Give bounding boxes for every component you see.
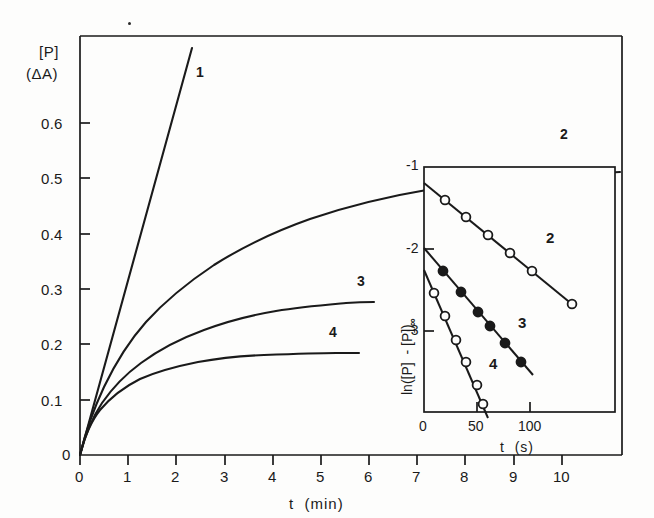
x-tick-label-6: 6	[364, 469, 372, 484]
inset-marker-4	[462, 358, 471, 367]
curve-1-path	[80, 48, 192, 455]
inset-x-tick-label-0: 0	[419, 419, 427, 433]
main-y-ticks	[80, 123, 90, 400]
inset-marker-3	[485, 321, 494, 330]
y-tick-label-0.4: 0.4	[41, 227, 63, 242]
x-tick-label-0: 0	[75, 469, 83, 484]
figure-canvas: [P] (ΔA) 0.6 0.5 0.4 0.3 0.2 0.1 0 0 1 2…	[0, 0, 654, 518]
x-tick-label-3: 3	[220, 469, 228, 484]
inset-marker-4	[452, 336, 461, 345]
origin-label: 0	[62, 447, 70, 462]
x-tick-label-4: 4	[268, 469, 276, 484]
inset-axes-frame	[424, 167, 615, 412]
inset-curve-label-2: 2	[546, 230, 554, 245]
x-tick-label-8: 8	[460, 469, 468, 484]
curve-label-2: 2	[560, 127, 568, 141]
inset-marker-4	[479, 400, 488, 409]
main-x-axis-title: t (min)	[289, 496, 344, 511]
inset-y-tick-label--2: -2	[406, 241, 418, 255]
main-y-axis-title-line2: (ΔA)	[26, 66, 58, 81]
inset-marker-2	[528, 267, 537, 276]
inset-marker-3	[438, 266, 447, 275]
inset-marker-4	[473, 381, 482, 390]
y-tick-label-0.1: 0.1	[41, 393, 63, 408]
inset-marker-2	[484, 231, 493, 240]
inset-marker-2	[506, 249, 515, 258]
inset-marker-3	[473, 307, 482, 316]
x-tick-label-5: 5	[316, 469, 324, 484]
inset-curve-label-3: 3	[518, 315, 526, 330]
curve-label-1: 1	[196, 65, 204, 79]
x-tick-label-9: 9	[509, 469, 517, 484]
inset-curve-label-4: 4	[489, 356, 497, 371]
inset-x-tick-label-100: 100	[518, 419, 541, 433]
y-tick-label-0.6: 0.6	[41, 116, 63, 131]
y-tick-label-0.5: 0.5	[41, 171, 63, 186]
main-y-axis-title-line1: [P]	[39, 44, 59, 59]
y-tick-label-0.3: 0.3	[41, 282, 63, 297]
curve-4-path	[80, 353, 359, 455]
inset-marker-3	[516, 357, 525, 366]
inset-marker-3	[500, 338, 509, 347]
inset-marker-2	[462, 213, 471, 222]
main-x-ticks	[80, 455, 562, 465]
x-tick-label-7: 7	[412, 469, 420, 484]
inset-marker-4	[430, 289, 439, 298]
x-tick-label-2: 2	[171, 469, 179, 484]
curve-label-4: 4	[329, 325, 337, 339]
inset-marker-3	[456, 287, 465, 296]
inset-plot-box	[424, 167, 615, 412]
inset-y-tick-label--1: -1	[406, 158, 418, 172]
inset-x-tick-label-50: 50	[468, 419, 484, 433]
inset-marker-4	[441, 312, 450, 321]
x-tick-label-10: 10	[553, 469, 570, 484]
y-tick-label-0.2: 0.2	[41, 337, 63, 352]
inset-x-axis-title: t (s)	[500, 440, 534, 454]
inset-y-tick-label--3: -3	[406, 323, 418, 337]
curve-label-3: 3	[357, 274, 365, 288]
inset-marker-2	[568, 300, 577, 309]
figure-vector-layer	[0, 0, 654, 518]
inset-marker-2	[441, 196, 450, 205]
x-tick-label-1: 1	[123, 469, 131, 484]
